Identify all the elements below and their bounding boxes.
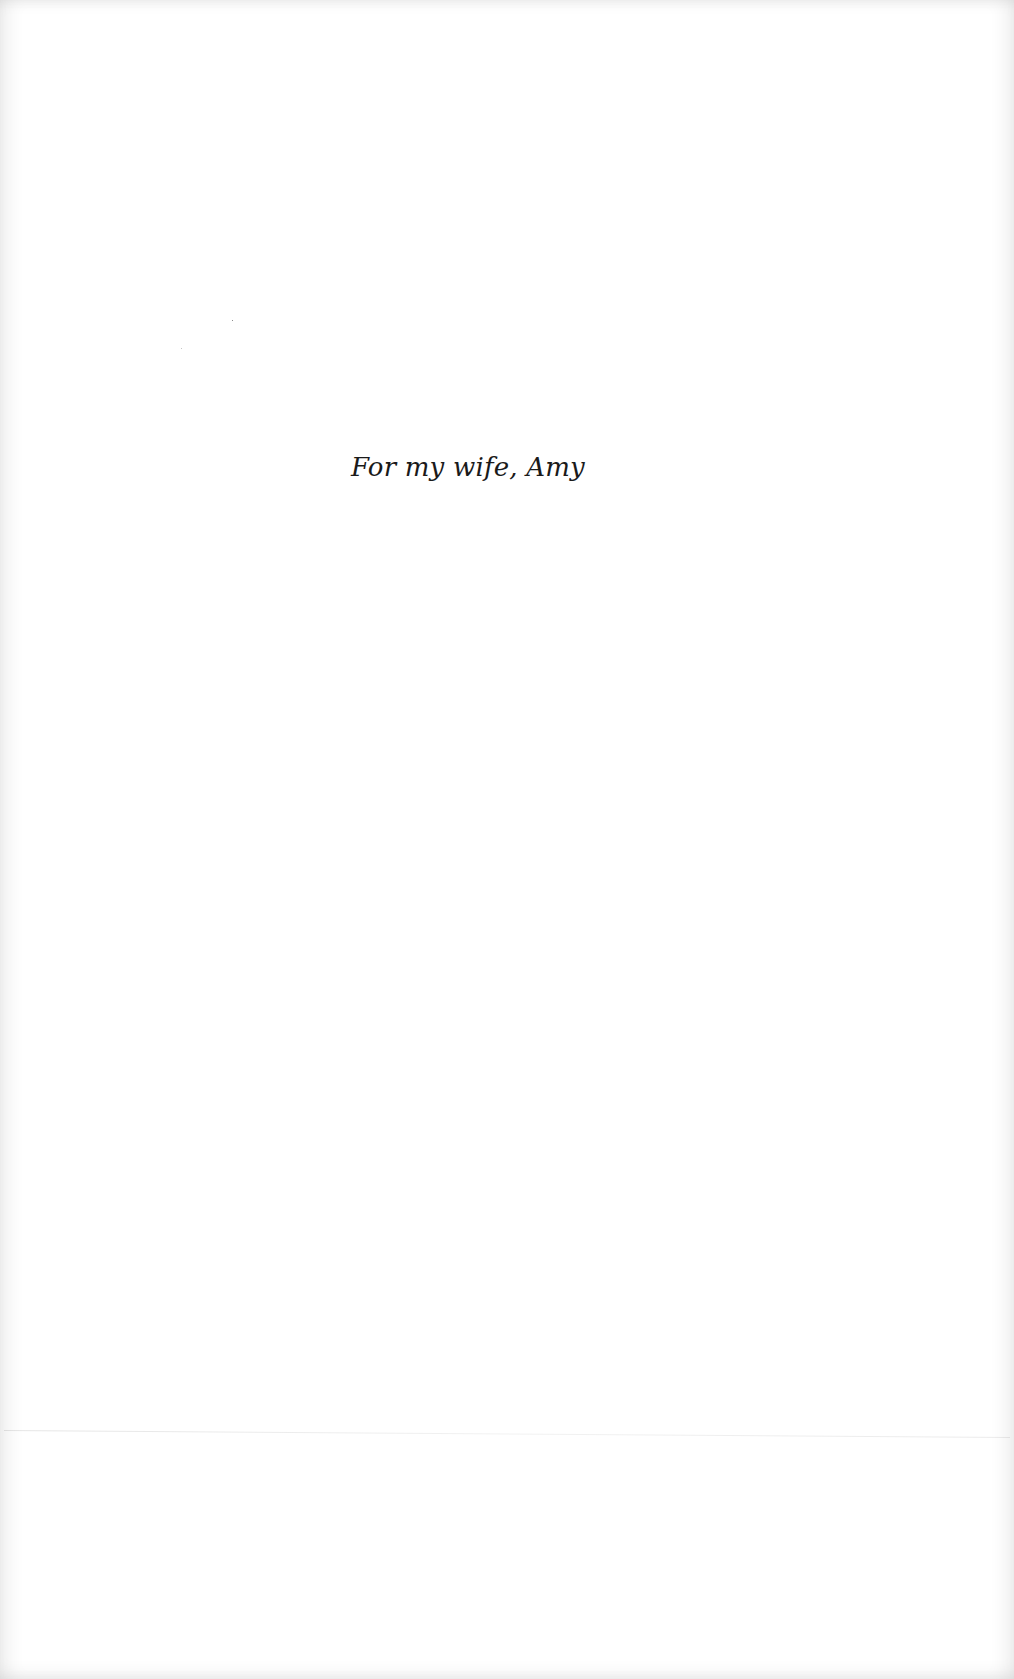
scan-speck bbox=[181, 348, 182, 349]
book-page: For my wife, Amy bbox=[0, 0, 1014, 1679]
scan-edge-shadow bbox=[0, 0, 1014, 1679]
dedication-text: For my wife, Amy bbox=[351, 452, 585, 482]
scan-speck bbox=[232, 320, 233, 321]
scan-artifact-line bbox=[4, 1430, 1010, 1438]
